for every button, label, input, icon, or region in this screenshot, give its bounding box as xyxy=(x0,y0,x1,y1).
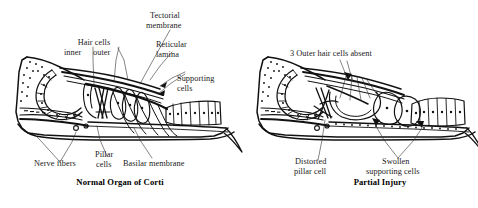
label-outer-hair-cells-absent: 3 Outer hair cells absent xyxy=(290,49,372,59)
organ-of-corti-injury-drawing xyxy=(257,57,478,152)
label-distorted-pillar-cell-line1: Distorted xyxy=(295,157,326,167)
label-pillar-cells-line2: cells xyxy=(96,160,111,170)
label-hair-cells: Hair cells xyxy=(62,38,126,48)
label-distorted-pillar-cell-line2: pillar cell xyxy=(294,167,326,177)
label-reticular-lamina-line1: Reticular xyxy=(156,40,187,50)
label-inner-hair-cells: inner xyxy=(64,48,81,58)
label-nerve-fibers: Nerve fibers xyxy=(34,159,76,169)
label-reticular-lamina-line2: lamina xyxy=(156,50,179,60)
limbus-stipple xyxy=(20,61,45,102)
figure-root: Hair cells inner outer Tectorial membran… xyxy=(0,0,478,208)
inner-hair-cell-nucleus xyxy=(87,94,89,96)
label-supporting-cells-line2: cells xyxy=(177,84,192,94)
label-swollen-supporting-cells-line2: supporting cells xyxy=(366,167,420,177)
caption-partial-injury: Partial Injury xyxy=(320,177,440,187)
label-tectorial-membrane-line1: Tectorial xyxy=(150,11,180,21)
caption-normal-organ-of-corti: Normal Organ of Corti xyxy=(40,177,200,187)
outer-hair-cells xyxy=(110,87,149,123)
claudius-cell-row xyxy=(166,101,221,125)
swollen-supporting-cells xyxy=(374,92,421,126)
normal-panel-art xyxy=(16,57,242,152)
label-basilar-membrane: Basilar membrane xyxy=(123,159,184,169)
label-swollen-supporting-cells-line1: Swollen xyxy=(382,157,410,167)
label-tectorial-membrane-line2: membrane xyxy=(146,21,181,31)
label-pillar-cells-line1: Pillar xyxy=(95,150,113,160)
label-outer-hair-cells: outer xyxy=(93,48,110,58)
interdental-nuclei xyxy=(40,76,75,118)
label-supporting-cells-line1: Supporting xyxy=(177,74,214,84)
limbus-stipple-injury xyxy=(261,61,286,102)
